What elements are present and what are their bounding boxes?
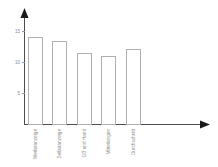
chart-canvas: 15 10 5 Werbeanzeige Selbstanzeige GB un… — [0, 0, 218, 167]
category-label-3: Mitteilungen — [106, 129, 111, 155]
x-axis-arrow-icon — [200, 121, 210, 129]
category-label-4: Durchschnitt — [131, 128, 136, 155]
bar-chart-figure: 15 10 5 Werbeanzeige Selbstanzeige GB un… — [0, 0, 218, 167]
y-tick-label-5: 5 — [17, 91, 20, 96]
bar-4 — [127, 50, 141, 125]
y-tick-label-15: 15 — [15, 29, 21, 34]
bar-0 — [29, 38, 43, 125]
category-label-2: GB und Hand — [82, 129, 87, 158]
category-label-1: Selbstanzeige — [57, 129, 62, 159]
category-label-0: Werbeanzeige — [33, 129, 38, 160]
y-tick-label-10: 10 — [15, 60, 21, 65]
bar-2 — [78, 53, 92, 124]
bar-1 — [53, 41, 67, 124]
y-axis-arrow-icon — [21, 8, 29, 18]
bar-3 — [102, 57, 116, 125]
